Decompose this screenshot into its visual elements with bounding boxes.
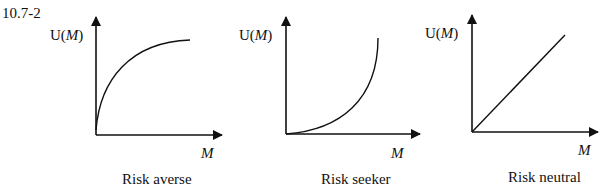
caption: Risk averse: [122, 172, 192, 187]
y-axis-label: U(M): [239, 28, 272, 43]
panel-risk-seeker: [286, 17, 420, 134]
x-axis-label: M: [578, 143, 591, 158]
y-axis-label: U(M): [425, 26, 458, 41]
caption: Risk neutral: [508, 170, 581, 185]
utility-line-linear: [472, 35, 565, 132]
panel-risk-averse: [96, 17, 222, 135]
x-axis-label: M: [391, 146, 404, 161]
utility-curve-convex: [286, 38, 378, 134]
utility-curve-concave: [96, 40, 190, 130]
panel-risk-neutral: [472, 15, 598, 132]
diagram-canvas: [0, 0, 612, 192]
x-axis-label: M: [201, 146, 214, 161]
y-axis-label: U(M): [50, 28, 83, 43]
caption: Risk seeker: [321, 172, 391, 187]
